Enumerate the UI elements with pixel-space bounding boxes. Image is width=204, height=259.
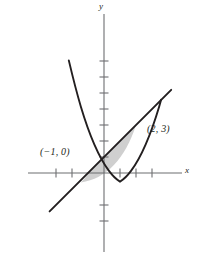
graph-figure: y x (−1, 0) (2, 3): [0, 0, 204, 259]
point-label-left-intersection: (−1, 0): [40, 147, 70, 157]
point-label-right-intersection: (2, 3): [147, 124, 170, 134]
coordinate-plot: [0, 0, 204, 259]
y-axis-label: y: [99, 2, 103, 11]
x-axis-label: x: [185, 166, 189, 175]
